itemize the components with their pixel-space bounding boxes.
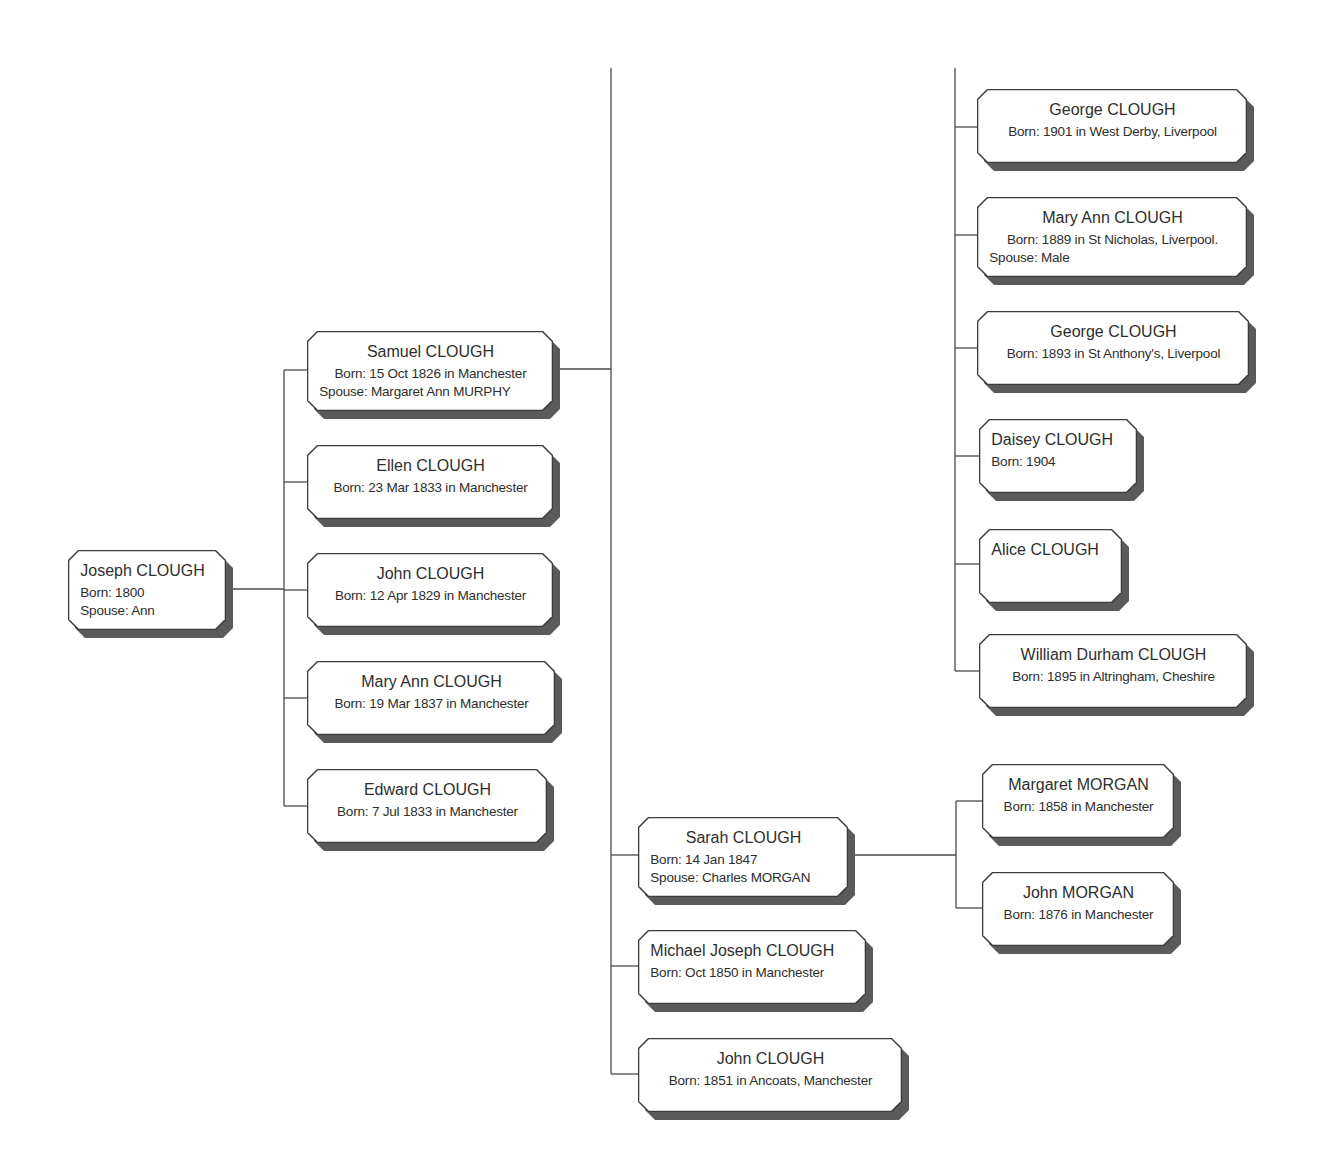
person-box-william[interactable]: William Durham CLOUGH Born: 1895 in Altr… bbox=[979, 634, 1247, 708]
person-born: Born: 1851 in Ancoats, Manchester bbox=[650, 1072, 890, 1090]
person-born: Born: 12 Apr 1829 in Manchester bbox=[319, 587, 541, 605]
person-box-george1893[interactable]: George CLOUGH Born: 1893 in St Anthony's… bbox=[977, 311, 1249, 385]
box-content: William Durham CLOUGH Born: 1895 in Altr… bbox=[980, 635, 1245, 706]
person-born: Born: 1901 in West Derby, Liverpool bbox=[989, 123, 1235, 141]
person-box-margaretmorgan[interactable]: Margaret MORGAN Born: 1858 in Manchester bbox=[982, 764, 1174, 838]
person-name: George CLOUGH bbox=[989, 100, 1235, 120]
person-box-johnmorgan[interactable]: John MORGAN Born: 1876 in Manchester bbox=[982, 872, 1174, 946]
person-box-edward[interactable]: Edward CLOUGH Born: 7 Jul 1833 in Manche… bbox=[307, 769, 547, 843]
person-box-john1851[interactable]: John CLOUGH Born: 1851 in Ancoats, Manch… bbox=[638, 1038, 902, 1112]
person-name: Edward CLOUGH bbox=[319, 780, 535, 800]
box-content: John MORGAN Born: 1876 in Manchester bbox=[983, 873, 1172, 944]
person-spouse: Spouse: Male bbox=[989, 249, 1235, 267]
person-name: Michael Joseph CLOUGH bbox=[650, 941, 854, 961]
person-born: Born: 1858 in Manchester bbox=[994, 798, 1162, 816]
person-box-joseph[interactable]: Joseph CLOUGH Born: 1800 Spouse: Ann bbox=[68, 550, 226, 630]
box-content: John CLOUGH Born: 12 Apr 1829 in Manches… bbox=[308, 554, 551, 625]
box-content: John CLOUGH Born: 1851 in Ancoats, Manch… bbox=[639, 1039, 900, 1110]
box-content: Margaret MORGAN Born: 1858 in Manchester bbox=[983, 765, 1172, 836]
person-born: Born: 1876 in Manchester bbox=[994, 906, 1162, 924]
person-box-michael[interactable]: Michael Joseph CLOUGH Born: Oct 1850 in … bbox=[638, 930, 866, 1004]
person-name: John CLOUGH bbox=[650, 1049, 890, 1069]
person-born: Born: 1889 in St Nicholas, Liverpool. bbox=[989, 231, 1235, 249]
person-name: Sarah CLOUGH bbox=[650, 828, 836, 848]
person-name: William Durham CLOUGH bbox=[991, 645, 1235, 665]
person-name: Samuel CLOUGH bbox=[319, 342, 541, 362]
person-born: Born: 1904 bbox=[991, 453, 1125, 471]
box-content: Daisey CLOUGH Born: 1904 bbox=[980, 420, 1135, 491]
person-name: John MORGAN bbox=[994, 883, 1162, 903]
box-content: Samuel CLOUGH Born: 15 Oct 1826 in Manch… bbox=[308, 332, 551, 409]
person-box-daisey[interactable]: Daisey CLOUGH Born: 1904 bbox=[979, 419, 1137, 493]
person-name: Joseph CLOUGH bbox=[80, 561, 214, 581]
person-name: Alice CLOUGH bbox=[991, 540, 1110, 560]
person-born: Born: 1895 in Altringham, Cheshire bbox=[991, 668, 1235, 686]
person-born: Born: 7 Jul 1833 in Manchester bbox=[319, 803, 535, 821]
box-content: Sarah CLOUGH Born: 14 Jan 1847 Spouse: C… bbox=[639, 818, 846, 895]
person-born: Born: 14 Jan 1847 bbox=[650, 851, 836, 869]
box-content: Mary Ann CLOUGH Born: 19 Mar 1837 in Man… bbox=[308, 662, 553, 733]
person-born: Born: 23 Mar 1833 in Manchester bbox=[319, 479, 541, 497]
person-name: Mary Ann CLOUGH bbox=[319, 672, 543, 692]
person-born: Born: 19 Mar 1837 in Manchester bbox=[319, 695, 543, 713]
box-content: George CLOUGH Born: 1901 in West Derby, … bbox=[978, 90, 1245, 161]
person-name: Margaret MORGAN bbox=[994, 775, 1162, 795]
person-name: George CLOUGH bbox=[989, 322, 1237, 342]
box-content: Michael Joseph CLOUGH Born: Oct 1850 in … bbox=[639, 931, 864, 1002]
box-content: Mary Ann CLOUGH Born: 1889 in St Nichola… bbox=[978, 198, 1245, 275]
person-box-john1829[interactable]: John CLOUGH Born: 12 Apr 1829 in Manches… bbox=[307, 553, 553, 627]
person-box-alice[interactable]: Alice CLOUGH bbox=[979, 529, 1122, 603]
person-born: Born: Oct 1850 in Manchester bbox=[650, 964, 854, 982]
box-content: Alice CLOUGH bbox=[980, 530, 1120, 601]
box-content: Ellen CLOUGH Born: 23 Mar 1833 in Manche… bbox=[308, 446, 551, 517]
person-name: Daisey CLOUGH bbox=[991, 430, 1125, 450]
box-content: George CLOUGH Born: 1893 in St Anthony's… bbox=[978, 312, 1247, 383]
person-name: Ellen CLOUGH bbox=[319, 456, 541, 476]
person-box-ellen[interactable]: Ellen CLOUGH Born: 23 Mar 1833 in Manche… bbox=[307, 445, 553, 519]
person-spouse: Spouse: Charles MORGAN bbox=[650, 869, 836, 887]
person-box-maryann1889[interactable]: Mary Ann CLOUGH Born: 1889 in St Nichola… bbox=[977, 197, 1247, 277]
person-box-george1901[interactable]: George CLOUGH Born: 1901 in West Derby, … bbox=[977, 89, 1247, 163]
person-box-sarah[interactable]: Sarah CLOUGH Born: 14 Jan 1847 Spouse: C… bbox=[638, 817, 848, 897]
box-content: Joseph CLOUGH Born: 1800 Spouse: Ann bbox=[69, 551, 224, 628]
person-name: Mary Ann CLOUGH bbox=[989, 208, 1235, 228]
person-born: Born: 1893 in St Anthony's, Liverpool bbox=[989, 345, 1237, 363]
person-box-samuel[interactable]: Samuel CLOUGH Born: 15 Oct 1826 in Manch… bbox=[307, 331, 553, 411]
person-box-maryann1837[interactable]: Mary Ann CLOUGH Born: 19 Mar 1837 in Man… bbox=[307, 661, 555, 735]
person-name: John CLOUGH bbox=[319, 564, 541, 584]
person-spouse: Spouse: Margaret Ann MURPHY bbox=[319, 383, 541, 401]
person-spouse: Spouse: Ann bbox=[80, 602, 214, 620]
box-content: Edward CLOUGH Born: 7 Jul 1833 in Manche… bbox=[308, 770, 545, 841]
person-born: Born: 15 Oct 1826 in Manchester bbox=[319, 365, 541, 383]
person-born: Born: 1800 bbox=[80, 584, 214, 602]
